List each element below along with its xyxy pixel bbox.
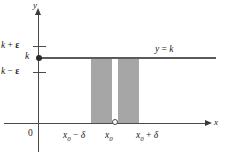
x-axis-line <box>4 123 208 124</box>
x-axis-arrowhead-icon <box>205 120 212 126</box>
curve-label-y-equals-k: y = k <box>155 44 174 54</box>
label-k-minus-epsilon: k − ε <box>1 66 19 76</box>
open-circle-marker-x0 <box>112 119 118 125</box>
y-tick-k-minus-epsilon <box>33 72 46 73</box>
label-k: k <box>25 51 29 61</box>
y-intercept-dot <box>36 55 42 61</box>
horizontal-line-y-equals-k <box>38 57 216 59</box>
limit-figure: y x 0 k + ε k k − ε x0 − δ x0 x0 + δ y =… <box>0 0 228 159</box>
y-tick-k-plus-epsilon <box>33 46 46 47</box>
origin-label: 0 <box>28 128 33 138</box>
shaded-band-right <box>118 58 139 123</box>
label-k-plus-epsilon: k + ε <box>1 40 19 50</box>
shaded-band-left <box>91 58 112 123</box>
label-x0-minus-delta: x0 − δ <box>63 130 85 142</box>
label-x0-plus-delta: x0 + δ <box>136 130 158 142</box>
label-x0: x0 <box>105 130 113 142</box>
y-axis-line <box>38 14 39 152</box>
y-axis-label: y <box>33 0 37 10</box>
x-axis-label: x <box>214 117 218 127</box>
